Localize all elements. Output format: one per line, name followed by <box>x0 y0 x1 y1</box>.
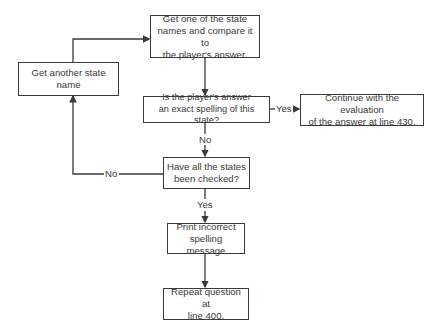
node-get-state-text: Get one of the state names and compare i… <box>153 13 257 61</box>
node-print-msg-text: Print incorrect spelling message <box>170 221 242 257</box>
edge-label-checked-yes: Yes <box>196 199 214 210</box>
node-exact-check-text: Is the player's answer an exact spelling… <box>146 92 267 127</box>
node-continue-eval: Continue with the evaluation of the answ… <box>300 94 424 126</box>
node-exact-check: Is the player's answer an exact spelling… <box>143 96 270 123</box>
edge-label-exact-no: No <box>198 134 212 145</box>
edge-loop-to-get-state <box>73 39 149 62</box>
node-get-another: Get another state name <box>18 62 119 96</box>
edge-label-checked-no: No <box>104 168 118 179</box>
node-get-state: Get one of the state names and compare i… <box>150 15 260 58</box>
node-repeat-q: Repeat question at line 400. <box>163 288 249 320</box>
edge-label-exact-yes: Yes <box>275 103 293 114</box>
node-continue-eval-text: Continue with the evaluation of the answ… <box>303 92 421 128</box>
node-repeat-q-text: Repeat question at line 400. <box>166 286 246 322</box>
node-all-checked: Have all the states been checked? <box>163 157 250 189</box>
edge-checked-no <box>73 96 104 174</box>
flowchart: Get one of the state names and compare i… <box>0 0 439 335</box>
node-get-another-text: Get another state name <box>21 67 116 91</box>
node-print-msg: Print incorrect spelling message <box>167 223 245 254</box>
node-all-checked-text: Have all the states been checked? <box>167 161 246 185</box>
